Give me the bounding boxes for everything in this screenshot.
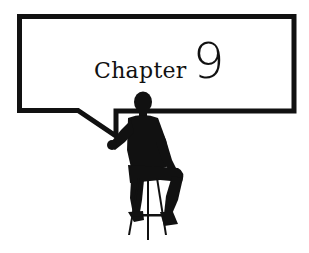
chapter-heading: Chapter9 <box>94 36 225 86</box>
chapter-number: 9 <box>193 32 225 90</box>
chapter-title-page: Chapter9 <box>0 0 309 253</box>
chapter-word: Chapter <box>94 58 187 83</box>
